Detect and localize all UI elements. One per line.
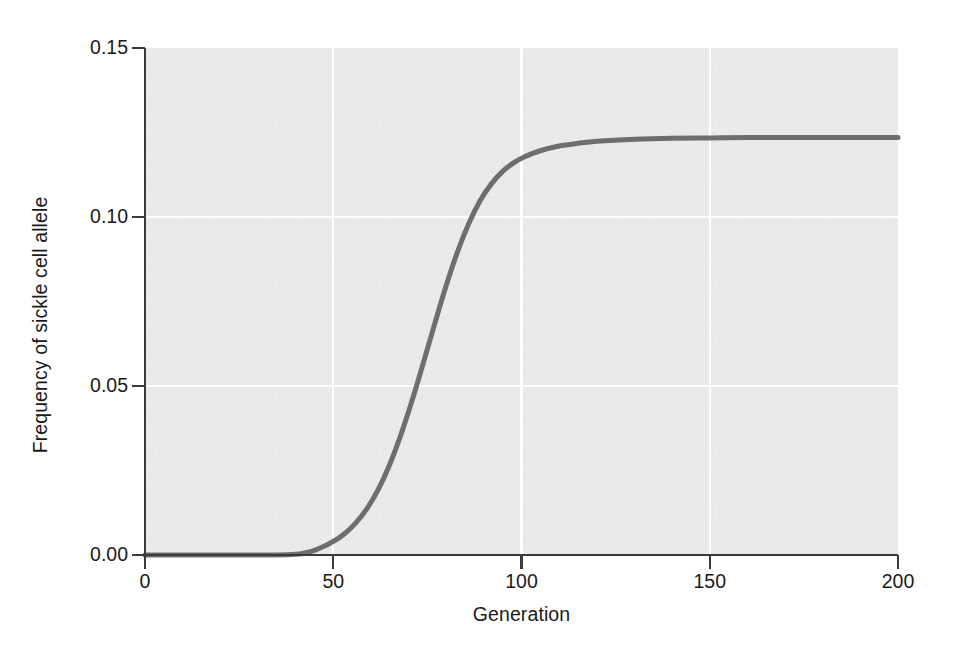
x-axis-tick-label: 100 xyxy=(482,572,562,592)
x-axis-tick-label: 0 xyxy=(105,572,185,592)
y-axis-title: Frequency of sickle cell allele xyxy=(22,0,58,650)
x-axis-tick-label: 50 xyxy=(293,572,373,592)
x-axis-tick-label: 200 xyxy=(858,572,938,592)
x-axis-title: Generation xyxy=(145,603,898,626)
x-axis-tick-label-group: 050100150200 xyxy=(0,0,956,650)
x-axis-tick-label: 150 xyxy=(670,572,750,592)
figure-container: 0.000.050.100.15 050100150200 Frequency … xyxy=(0,0,956,650)
